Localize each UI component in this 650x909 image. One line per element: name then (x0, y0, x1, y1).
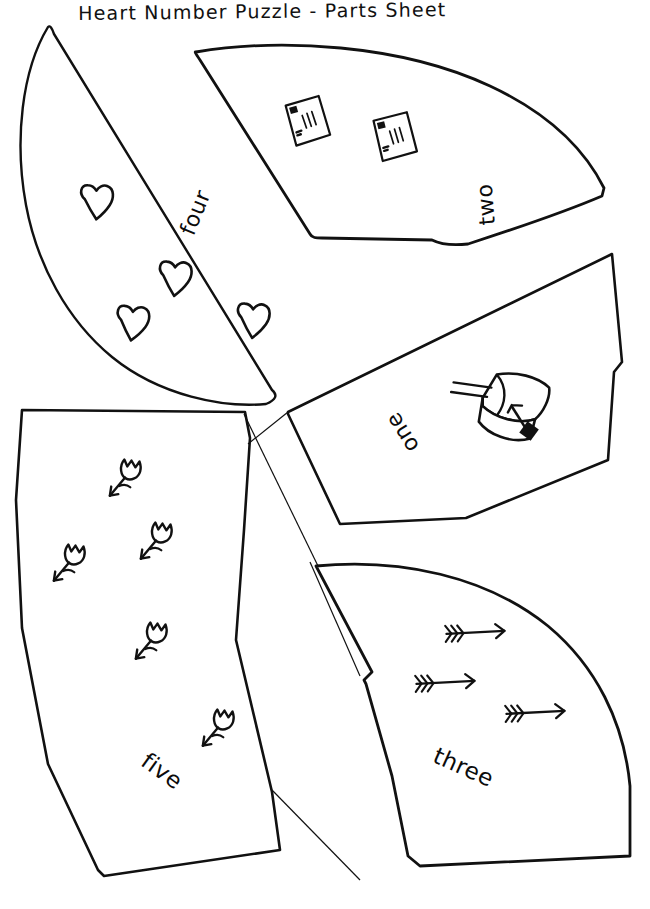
puzzle-piece-three[interactable] (316, 564, 630, 866)
trim-line-five-bottom (272, 790, 360, 880)
puzzle-piece-five[interactable] (16, 410, 280, 876)
trim-line-one-five (248, 412, 288, 444)
heart-icon (237, 299, 274, 339)
puzzle-pieces-drawing (0, 0, 650, 909)
piece-label-two: two (472, 183, 501, 227)
piece-outline-three (316, 564, 630, 866)
parts-sheet-page: Heart Number Puzzle - Parts Sheet (0, 0, 650, 909)
piece-outline-one (288, 254, 622, 524)
puzzle-piece-one[interactable] (288, 254, 622, 524)
puzzle-piece-two[interactable] (195, 45, 604, 245)
